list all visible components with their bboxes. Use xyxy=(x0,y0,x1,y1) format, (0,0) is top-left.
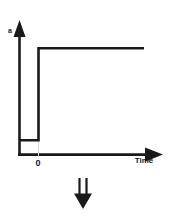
time-axis-label: Time xyxy=(135,156,154,165)
amplitude-axis-label: a xyxy=(8,27,12,34)
step-function-diagram: a Time 0 xyxy=(0,0,171,221)
time-axis-tick-zero: 0 xyxy=(35,158,40,168)
